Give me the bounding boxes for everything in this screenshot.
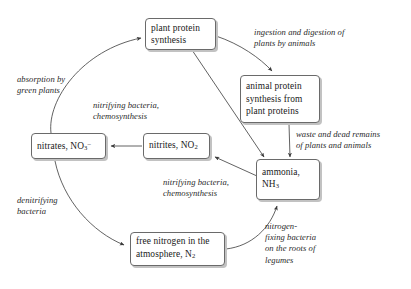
- label-absorption-green-plants: absorption by green plants: [17, 74, 65, 96]
- node-line: free nitrogen in the: [136, 235, 219, 247]
- node-line: synthesis: [151, 34, 210, 46]
- label-line: plants by animals: [254, 38, 344, 49]
- label-denitrifying-bacteria: denitrifying bacteria: [17, 195, 58, 217]
- node-line-formula: atmosphere, N2: [136, 248, 219, 263]
- node-ammonia[interactable]: ammonia, NH3: [256, 159, 320, 200]
- node-line-formula: nitrites, NO2: [149, 139, 204, 154]
- label-line: of plants and animals: [296, 140, 380, 151]
- nitrates-text: nitrates, NO: [37, 140, 84, 150]
- edge-animal-protein-to-ammonia: [289, 124, 290, 157]
- label-nitrifying-bacteria-upper: nitrifying bacteria, chemosynthesis: [93, 100, 159, 122]
- label-nitrifying-bacteria-lower: nitrifying bacteria, chemosynthesis: [163, 177, 229, 199]
- free-nitrogen-subscript: 2: [192, 252, 195, 259]
- label-line: legumes: [265, 255, 316, 266]
- edge-nitrates-to-free-nitrogen: [55, 161, 124, 245]
- nitrates-charge: –: [87, 140, 90, 147]
- ammonia-formula-text: NH: [262, 179, 276, 189]
- label-line: denitrifying: [17, 195, 58, 206]
- label-line: fixing bacteria: [265, 232, 316, 243]
- nitrites-text: nitrites, NO: [149, 140, 194, 150]
- edge-ammonia-to-nitrites: [215, 157, 257, 176]
- ammonia-formula-subscript: 3: [276, 183, 279, 190]
- label-line: ingestion and digestion of: [254, 27, 344, 38]
- label-line: chemosynthesis: [93, 111, 159, 122]
- label-line: green plants: [17, 85, 65, 96]
- label-line: nitrifying bacteria,: [163, 177, 229, 188]
- node-nitrates[interactable]: nitrates, NO3–: [31, 133, 106, 159]
- node-line: synthesis from: [246, 93, 314, 105]
- node-line: plant proteins: [246, 105, 314, 117]
- node-line-formula: NH3: [262, 178, 314, 193]
- node-line: ammonia,: [262, 166, 314, 178]
- label-line: nitrifying bacteria,: [93, 100, 159, 111]
- node-line: animal protein: [246, 80, 314, 92]
- nitrites-subscript: 2: [194, 143, 197, 150]
- free-nitrogen-text: atmosphere, N: [136, 249, 192, 259]
- label-line: waste and dead remains: [296, 129, 380, 140]
- node-nitrites[interactable]: nitrites, NO2: [143, 133, 210, 159]
- label-line: on the roots of: [265, 243, 316, 254]
- label-ingestion-digestion: ingestion and digestion of plants by ani…: [254, 27, 344, 49]
- label-line: absorption by: [17, 74, 65, 85]
- label-line: nitrogen-: [265, 221, 316, 232]
- node-plant-protein-synthesis[interactable]: plant protein synthesis: [145, 18, 216, 50]
- label-waste-dead-remains: waste and dead remains of plants and ani…: [296, 129, 380, 151]
- node-free-nitrogen[interactable]: free nitrogen in the atmosphere, N2: [130, 232, 225, 266]
- label-line: bacteria: [17, 206, 58, 217]
- node-animal-protein-synthesis[interactable]: animal protein synthesis from plant prot…: [240, 75, 320, 123]
- label-line: chemosynthesis: [163, 188, 229, 199]
- node-line: plant protein: [151, 22, 210, 34]
- label-nitrogen-fixing-bacteria: nitrogen- fixing bacteria on the roots o…: [265, 221, 316, 266]
- nitrogen-cycle-diagram: plant protein synthesis animal protein s…: [0, 0, 411, 289]
- node-line-formula: nitrates, NO3–: [37, 138, 100, 155]
